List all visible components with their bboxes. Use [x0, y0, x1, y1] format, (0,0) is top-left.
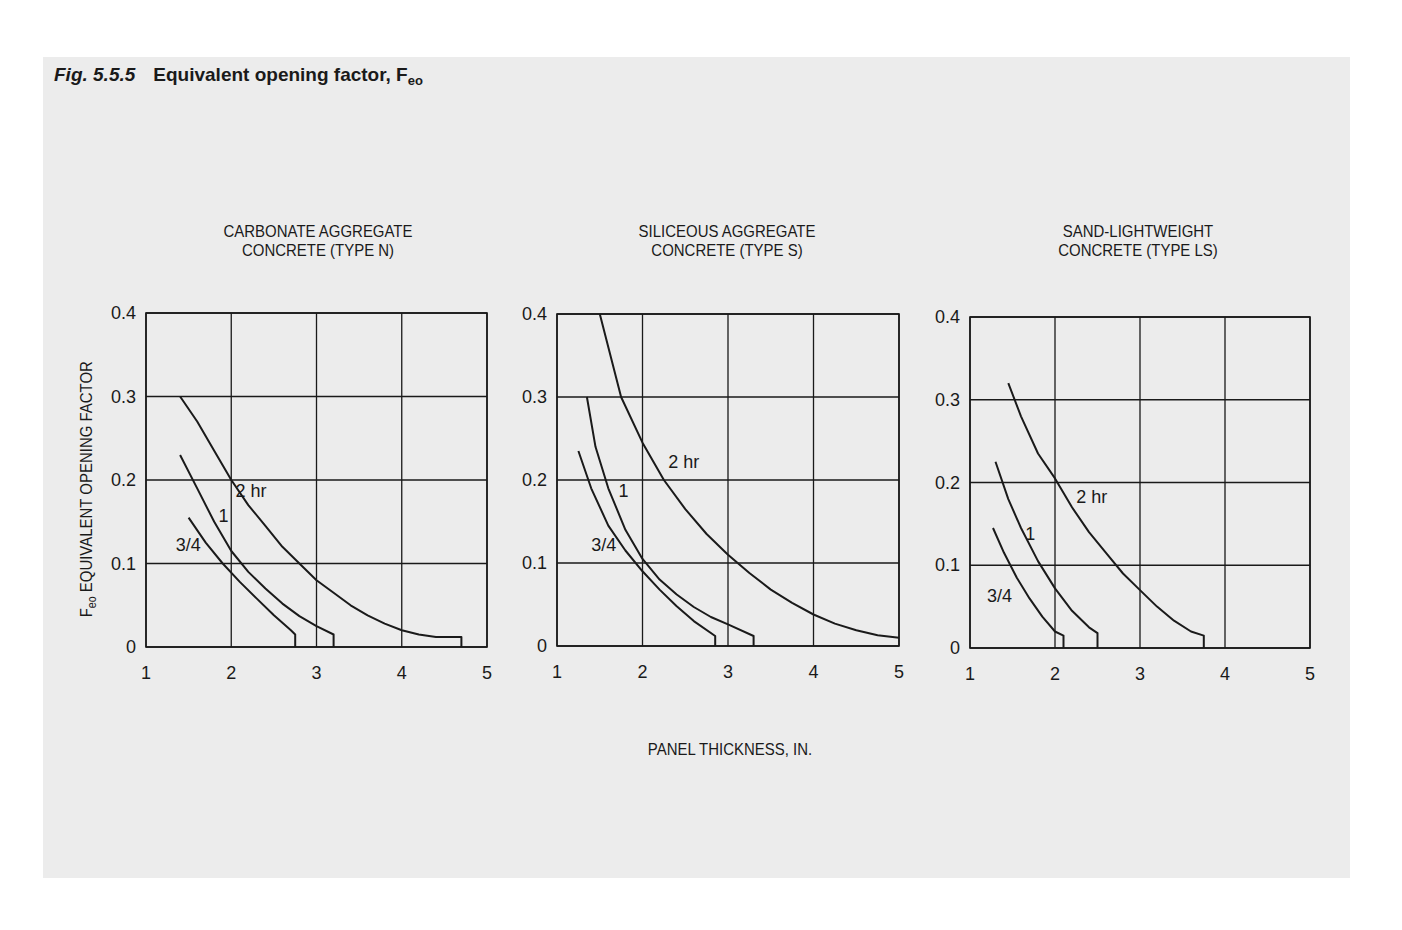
- x-tick-label: 5: [482, 663, 492, 683]
- y-tick-label: 0.4: [522, 304, 547, 324]
- curve-label: 3/4: [591, 535, 616, 555]
- curve-label: 1: [619, 481, 629, 501]
- y-tick-label: 0.4: [111, 303, 136, 323]
- x-tick-label: 4: [808, 662, 818, 682]
- chart-panel-3: 1234500.10.20.30.42 hr13/4: [935, 307, 1315, 684]
- chart-panel-2: 1234500.10.20.30.42 hr13/4: [522, 304, 904, 682]
- x-tick-label: 1: [552, 662, 562, 682]
- curve-label: 2 hr: [236, 481, 267, 501]
- y-tick-label: 0: [950, 638, 960, 658]
- x-tick-label: 2: [226, 663, 236, 683]
- x-tick-label: 3: [311, 663, 321, 683]
- curve-label: 2 hr: [1076, 487, 1107, 507]
- y-tick-label: 0.3: [111, 387, 136, 407]
- x-tick-label: 4: [397, 663, 407, 683]
- x-tick-label: 3: [723, 662, 733, 682]
- y-tick-label: 0.2: [111, 470, 136, 490]
- curve-label: 2 hr: [668, 452, 699, 472]
- y-tick-label: 0.3: [522, 387, 547, 407]
- y-tick-label: 0.4: [935, 307, 960, 327]
- x-tick-label: 4: [1220, 664, 1230, 684]
- curve-label: 3/4: [176, 535, 201, 555]
- x-tick-label: 5: [894, 662, 904, 682]
- chart-panels: 1234500.10.20.30.42 hr13/41234500.10.20.…: [0, 0, 1402, 930]
- curve-label: 1: [1025, 524, 1035, 544]
- y-tick-label: 0.3: [935, 390, 960, 410]
- x-tick-label: 3: [1135, 664, 1145, 684]
- y-tick-label: 0.2: [935, 473, 960, 493]
- y-tick-label: 0.1: [935, 555, 960, 575]
- y-tick-label: 0: [126, 637, 136, 657]
- x-tick-label: 5: [1305, 664, 1315, 684]
- x-tick-label: 2: [637, 662, 647, 682]
- curve-label: 1: [218, 506, 228, 526]
- x-tick-label: 2: [1050, 664, 1060, 684]
- x-tick-label: 1: [965, 664, 975, 684]
- curve-2-hr: [600, 314, 899, 638]
- x-tick-label: 1: [141, 663, 151, 683]
- curve-label: 3/4: [987, 586, 1012, 606]
- y-tick-label: 0.1: [111, 554, 136, 574]
- chart-panel-1: 1234500.10.20.30.42 hr13/4: [111, 303, 492, 683]
- curve-3-4: [189, 518, 296, 647]
- y-tick-label: 0: [537, 636, 547, 656]
- y-tick-label: 0.1: [522, 553, 547, 573]
- y-tick-label: 0.2: [522, 470, 547, 490]
